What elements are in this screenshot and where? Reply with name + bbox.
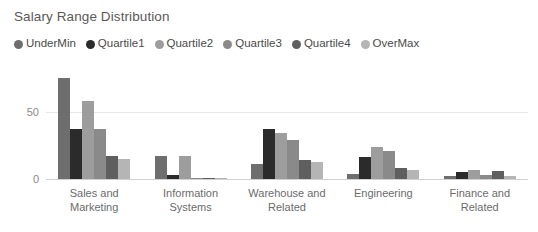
legend-item-label: OverMax [373,38,420,50]
category-axis-labels: Sales and MarketingInformation SystemsWa… [46,186,528,214]
bar-group [142,62,238,179]
legend-item-label: Quartile1 [98,38,145,50]
bar[interactable] [407,170,419,179]
y-axis-tick-label: 0 [33,173,39,185]
bar[interactable] [504,176,516,179]
bar-groups [46,62,528,179]
bar[interactable] [347,174,359,179]
legend-item-quartile4[interactable]: Quartile4 [292,38,351,50]
bar-group [46,62,142,179]
bar[interactable] [311,162,323,179]
bar[interactable] [359,157,371,179]
bar[interactable] [287,140,299,179]
bar-group [432,62,528,179]
legend-swatch-icon [155,40,164,49]
bar[interactable] [167,175,179,179]
bar[interactable] [371,147,383,179]
legend-item-undermin[interactable]: UnderMin [14,38,76,50]
bar[interactable] [70,129,82,179]
bar-group [239,62,335,179]
legend-item-label: UnderMin [26,38,76,50]
bar[interactable] [94,129,106,179]
bar[interactable] [492,171,504,179]
bar[interactable] [215,178,227,179]
y-axis-tick-label: 50 [27,106,39,118]
bar[interactable] [456,172,468,179]
category-label: Finance and Related [432,186,528,214]
bar[interactable] [179,156,191,179]
salary-range-distribution-chart: Salary Range Distribution UnderMinQuarti… [0,0,538,232]
bar[interactable] [58,78,70,179]
category-label: Engineering [335,186,431,214]
chart-legend: UnderMinQuartile1Quartile2Quartile3Quart… [14,36,419,52]
legend-swatch-icon [292,40,301,49]
legend-swatch-icon [86,40,95,49]
x-axis-line [46,179,528,180]
bar[interactable] [263,129,275,179]
legend-item-quartile2[interactable]: Quartile2 [155,38,214,50]
bar[interactable] [468,170,480,179]
bar[interactable] [299,160,311,179]
category-label: Warehouse and Related [239,186,335,214]
bar[interactable] [275,133,287,179]
legend-swatch-icon [14,40,23,49]
legend-item-quartile3[interactable]: Quartile3 [223,38,282,50]
bar[interactable] [155,156,167,179]
bar[interactable] [444,176,456,179]
legend-item-quartile1[interactable]: Quartile1 [86,38,145,50]
bar[interactable] [251,164,263,179]
legend-item-label: Quartile4 [304,38,351,50]
chart-title: Salary Range Distribution [14,9,170,24]
category-label: Sales and Marketing [46,186,142,214]
legend-swatch-icon [223,40,232,49]
legend-item-label: Quartile3 [235,38,282,50]
bar[interactable] [383,151,395,179]
bar[interactable] [118,159,130,179]
legend-item-label: Quartile2 [167,38,214,50]
bar[interactable] [191,178,203,179]
bar[interactable] [203,178,215,179]
bar[interactable] [395,168,407,179]
category-label: Information Systems [142,186,238,214]
bar[interactable] [480,175,492,179]
bar[interactable] [106,156,118,179]
bar[interactable] [82,101,94,179]
bar-group [335,62,431,179]
legend-swatch-icon [361,40,370,49]
legend-item-overmax[interactable]: OverMax [361,38,420,50]
